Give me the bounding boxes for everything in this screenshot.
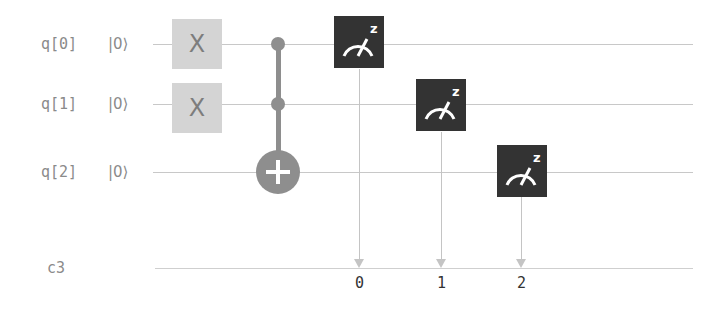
measure-line-1 bbox=[441, 132, 442, 260]
qubit-init-1: |0⟩ bbox=[108, 97, 128, 112]
bit-label-1: 1 bbox=[437, 276, 446, 291]
measure-gate-q2[interactable]: z bbox=[497, 145, 547, 197]
qubit-wire-2 bbox=[153, 172, 693, 173]
arrow-down-icon bbox=[354, 259, 364, 268]
bit-label-2: 2 bbox=[517, 276, 526, 291]
classical-wire bbox=[155, 268, 693, 269]
arrow-down-icon bbox=[516, 259, 526, 268]
x-gate-q0[interactable]: X bbox=[172, 19, 222, 69]
classical-register-label: c3 bbox=[47, 261, 65, 276]
measure-line-2 bbox=[521, 197, 522, 260]
qubit-label-0: q[0] bbox=[41, 37, 77, 52]
x-gate-label: X bbox=[189, 30, 205, 58]
measure-gate-q0[interactable]: z bbox=[334, 16, 384, 68]
meter-icon: z bbox=[416, 79, 466, 131]
measure-line-0 bbox=[359, 69, 360, 260]
meter-icon: z bbox=[497, 145, 547, 197]
control-dot-q1 bbox=[271, 97, 285, 111]
qubit-label-1: q[1] bbox=[41, 97, 77, 112]
x-gate-q1[interactable]: X bbox=[172, 83, 222, 133]
qubit-init-0: |0⟩ bbox=[108, 37, 128, 52]
svg-text:z: z bbox=[452, 84, 460, 99]
measure-gate-q1[interactable]: z bbox=[416, 79, 466, 131]
qubit-label-2: q[2] bbox=[41, 165, 77, 180]
control-dot-q0 bbox=[271, 37, 285, 51]
svg-text:z: z bbox=[533, 150, 541, 165]
meter-icon: z bbox=[334, 16, 384, 68]
qubit-init-2: |0⟩ bbox=[108, 165, 128, 180]
arrow-down-icon bbox=[436, 259, 446, 268]
target-plus-icon bbox=[256, 150, 300, 194]
x-gate-label: X bbox=[189, 94, 205, 122]
bit-label-0: 0 bbox=[355, 276, 364, 291]
qubit-wire-0 bbox=[153, 44, 693, 45]
svg-text:z: z bbox=[370, 21, 378, 36]
